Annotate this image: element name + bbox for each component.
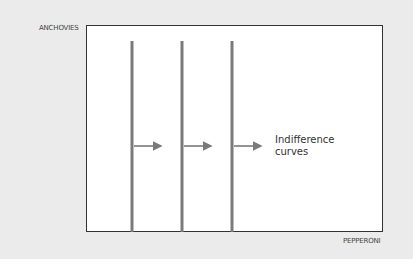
indifference-curves-label: Indifference curves <box>275 134 335 158</box>
annotation-line-1: Indifference <box>275 134 335 146</box>
indifference-curves <box>0 0 413 259</box>
annotation-line-2: curves <box>275 146 335 158</box>
